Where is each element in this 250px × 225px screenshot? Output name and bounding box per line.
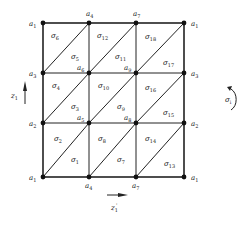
triangle-label-sigma-13: σ13 <box>164 160 175 169</box>
vertex-label: a6 <box>77 64 84 73</box>
vertex-label: a9 <box>124 64 131 73</box>
vertex-dot <box>134 21 139 26</box>
vertex-dot <box>134 175 139 180</box>
vertex-dot <box>41 21 46 26</box>
diagonal-line <box>43 73 89 123</box>
triangle-label-sigma-2: σ2 <box>54 135 62 144</box>
vertex-label: a7 <box>133 10 140 19</box>
triangle-label-sigma-9: σ9 <box>117 103 125 112</box>
vertex-dots <box>41 21 187 180</box>
triangle-label-sigma-17: σ17 <box>163 59 174 68</box>
orientation-label: σi <box>225 96 232 105</box>
triangle-label-sigma-1: σ1 <box>71 156 79 165</box>
triangle-label-sigma-11: σ11 <box>115 53 126 62</box>
diagonal-line <box>43 123 89 177</box>
vertex-dot <box>182 121 187 126</box>
diagonal-line <box>136 73 184 123</box>
diagonal-line <box>89 23 136 73</box>
vertex-dot <box>134 121 139 126</box>
orientation-indicator: σi <box>225 86 236 110</box>
vertex-dot <box>41 175 46 180</box>
triangle-label-sigma-18: σ18 <box>145 33 156 42</box>
triangle-label-sigma-14: σ14 <box>145 135 156 144</box>
vertex-dot <box>87 21 92 26</box>
arrow-right-icon <box>118 193 128 197</box>
vertex-label: a1 <box>191 174 198 183</box>
vertex-label: a1 <box>191 20 198 29</box>
vertex-label: a3 <box>29 70 36 79</box>
vertex-dot <box>134 71 139 76</box>
vertex-dot <box>87 71 92 76</box>
diagonal-line <box>89 73 136 123</box>
diagonal-line <box>136 123 184 177</box>
vertex-dot <box>41 71 46 76</box>
triangle-label-sigma-12: σ12 <box>97 32 108 41</box>
horizontal-axis-indicator: z1' <box>107 193 128 213</box>
vertex-label: a1 <box>29 20 36 29</box>
triangle-label-sigma-10: σ10 <box>98 82 109 91</box>
vertex-dot <box>87 121 92 126</box>
vertex-dot <box>182 175 187 180</box>
vertex-label: a1 <box>29 174 36 183</box>
diagonal-line <box>89 123 136 177</box>
vertex-label: a4 <box>85 182 92 191</box>
triangle-labels: σ1 σ2 σ3 σ4 σ5 σ6 σ7 σ8 σ9 σ10 σ11 σ12 σ… <box>51 32 175 169</box>
vertex-dot <box>182 71 187 76</box>
vertex-label: a8 <box>124 114 131 123</box>
triangle-label-sigma-7: σ7 <box>117 156 125 165</box>
triangle-label-sigma-8: σ8 <box>98 135 106 144</box>
vertex-dot <box>182 21 187 26</box>
vertical-axis-indicator: z1 <box>10 81 27 104</box>
vertex-label: a4 <box>86 10 93 19</box>
vertex-label: a2 <box>191 120 198 129</box>
vertical-axis-label: z1 <box>10 92 18 101</box>
rotate-counterclockwise-icon <box>227 86 232 91</box>
torus-triangulation-diagram: a1 a4 a7 a1 a3 a6 a9 a3 a2 a5 a8 a2 a1 a… <box>0 0 250 225</box>
triangle-label-sigma-16: σ16 <box>145 84 156 93</box>
triangle-label-sigma-5: σ5 <box>71 53 79 62</box>
triangle-label-sigma-3: σ3 <box>71 103 79 112</box>
arrow-up-icon <box>23 81 27 91</box>
triangle-label-sigma-6: σ6 <box>51 32 59 41</box>
vertex-label: a7 <box>132 182 139 191</box>
horizontal-axis-label: z1' <box>110 202 118 213</box>
triangle-label-sigma-15: σ15 <box>163 109 174 118</box>
vertex-label: a2 <box>29 120 36 129</box>
vertex-dot <box>87 175 92 180</box>
diagonal-line <box>43 23 89 73</box>
vertex-label: a3 <box>191 70 198 79</box>
diagonal-line <box>136 23 184 73</box>
vertex-label: a5 <box>77 114 84 123</box>
grid-lines <box>43 23 184 177</box>
orientation-arc <box>231 89 236 110</box>
vertex-dot <box>41 121 46 126</box>
triangle-label-sigma-4: σ4 <box>52 82 60 91</box>
